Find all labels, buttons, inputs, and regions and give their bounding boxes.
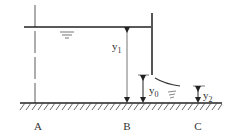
jet-surface-icon — [168, 91, 176, 98]
svg-text:y1: y1 — [112, 40, 122, 55]
section-a-label: A — [34, 120, 42, 132]
jet-profile-curve — [155, 78, 180, 86]
section-b-label: B — [123, 120, 130, 132]
svg-text:y0: y0 — [149, 84, 159, 99]
bed-hatching — [20, 103, 222, 110]
sluice-gate-diagram: y1 y0 y2 A B C — [0, 0, 230, 137]
svg-text:y2: y2 — [203, 89, 213, 104]
depth-y0-sub: 0 — [155, 90, 159, 99]
section-c-label: C — [194, 120, 201, 132]
water-surface-icon — [60, 32, 74, 38]
depth-y1-sub: 1 — [118, 46, 122, 55]
